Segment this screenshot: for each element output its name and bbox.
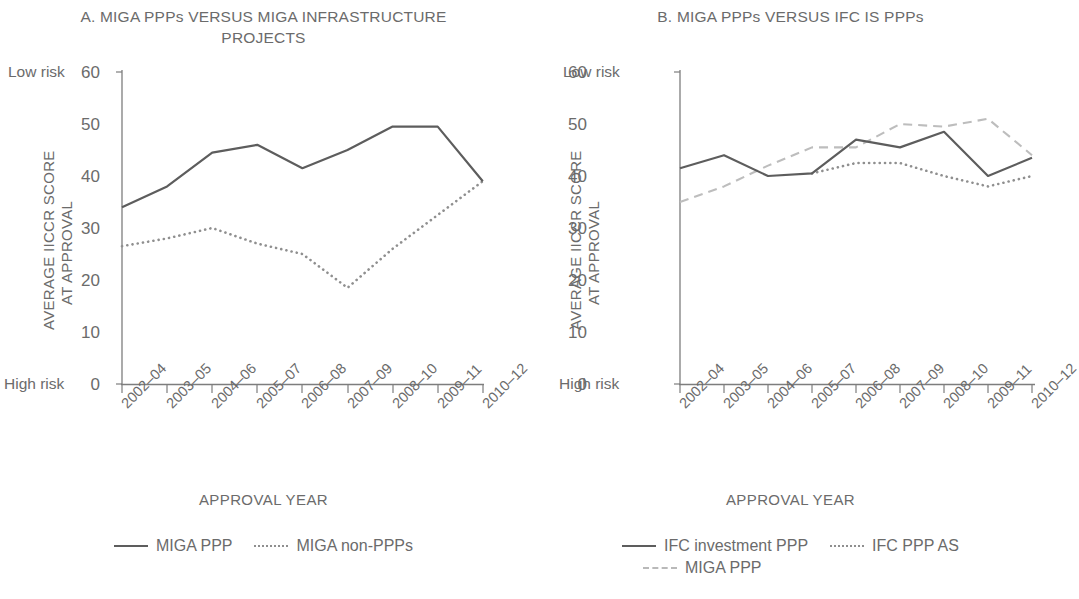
panel-a-legend: MIGA PPP MIGA non-PPPs (0, 537, 527, 555)
panel-a-y-tickmarks (116, 72, 122, 384)
panel-a-legend-label-1: MIGA non-PPPs (296, 537, 413, 555)
panel-b-x-axis-title: APPROVAL YEAR (527, 491, 1054, 508)
line-dashed-icon (643, 567, 677, 569)
panel-b-legend: IFC investment PPP IFC PPP AS MIGA PPP (527, 537, 1054, 577)
panel-b-legend-label-1: IFC PPP AS (872, 537, 959, 555)
panel-a-legend-item-miga-ppp[interactable]: MIGA PPP (114, 537, 232, 555)
chart-panel-a: A. MIGA PPPs VERSUS MIGA INFRASTRUCTURE … (0, 0, 527, 599)
panel-b-plot (527, 0, 1054, 400)
panel-a-series-miga-ppp (122, 127, 483, 208)
panel-b-legend-label-2: MIGA PPP (685, 559, 761, 577)
line-dotted-icon (830, 545, 864, 547)
chart-panel-b: B. MIGA PPPs VERSUS IFC IS PPPs AVERAGE … (527, 0, 1054, 599)
panel-b-legend-item-ifc-ppp-as[interactable]: IFC PPP AS (830, 537, 959, 555)
panel-b-legend-label-0: IFC investment PPP (664, 537, 808, 555)
panel-a-plot (0, 0, 527, 400)
panel-b-legend-item-miga-ppp[interactable]: MIGA PPP (535, 559, 1046, 577)
line-solid-icon (622, 545, 656, 547)
line-dotted-icon (254, 545, 288, 547)
panel-b-legend-item-ifc-investment-ppp[interactable]: IFC investment PPP (622, 537, 808, 555)
panel-b-y-tickmarks (674, 72, 680, 384)
panel-b-series-ifc-investment-ppp (680, 132, 1032, 176)
line-solid-icon (114, 545, 148, 547)
panel-a-series-miga-non-ppps (122, 181, 483, 288)
panel-a-legend-item-miga-non-ppps[interactable]: MIGA non-PPPs (254, 537, 413, 555)
panel-a-legend-label-0: MIGA PPP (156, 537, 232, 555)
panel-b-series-ifc-ppp-as (812, 163, 1032, 186)
panel-a-x-axis-title: APPROVAL YEAR (0, 491, 527, 508)
